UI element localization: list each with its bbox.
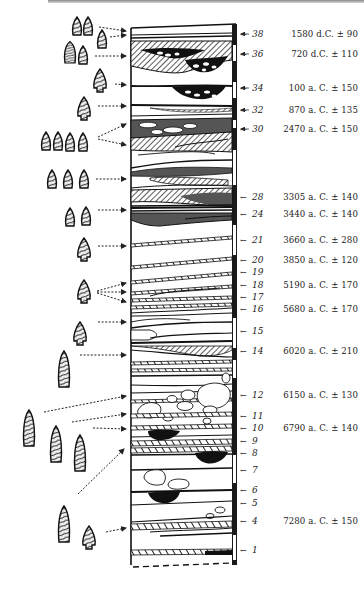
- arrow-left-icon: ←: [240, 485, 250, 497]
- arrow-left-icon: ←: [240, 124, 250, 136]
- arrow-left-icon: ←: [240, 423, 250, 435]
- layer-label: ←7: [240, 464, 358, 476]
- arrow-left-icon: ←: [240, 105, 250, 117]
- layer-label: ←47280 a. C. ± 150: [240, 515, 358, 527]
- arrow-left-icon: ←: [240, 326, 250, 338]
- layer-label: ←5: [240, 497, 358, 509]
- layer-label: ←19: [240, 266, 358, 278]
- arrow-left-icon: ←: [240, 448, 250, 460]
- layer-label: ←165680 a. C. ± 170: [240, 303, 358, 315]
- layer-label: ←6: [240, 484, 358, 496]
- arrow-left-icon: ←: [240, 545, 250, 557]
- layer-label: ←17: [240, 291, 358, 303]
- arrow-left-icon: ←: [240, 209, 250, 221]
- layer-label: ←15: [240, 325, 358, 337]
- arrow-left-icon: ←: [240, 83, 250, 95]
- arrow-left-icon: ←: [240, 235, 250, 247]
- layer-label: ←34100 a. C. ± 150: [240, 82, 358, 94]
- arrow-left-icon: ←: [240, 516, 250, 528]
- layer-label: ←126150 a. C. ± 130: [240, 389, 358, 401]
- layer-label: ←8: [240, 447, 358, 459]
- stratigraphic-column: [131, 24, 237, 567]
- layer-label: ←11: [240, 410, 358, 422]
- projectile-points: [24, 17, 107, 549]
- layer-label: ←185190 a. C. ± 170: [240, 279, 358, 291]
- layer-label: ←1: [240, 544, 358, 556]
- arrow-left-icon: ←: [240, 29, 250, 41]
- layer-label: ←32870 a. C. ± 135: [240, 104, 358, 116]
- layer-label: ←146020 a. C. ± 210: [240, 345, 358, 357]
- arrow-left-icon: ←: [240, 390, 250, 402]
- arrow-left-icon: ←: [240, 346, 250, 358]
- arrow-left-icon: ←: [240, 304, 250, 316]
- layer-label: ←203850 a. C. ± 120: [240, 254, 358, 266]
- layer-label: ←106790 a. C. ± 140: [240, 422, 358, 434]
- arrow-left-icon: ←: [240, 465, 250, 477]
- arrow-left-icon: ←: [240, 267, 250, 279]
- layer-label: ←9: [240, 435, 358, 447]
- layer-label: ←213660 a. C. ± 280: [240, 234, 358, 246]
- layer-label: ←36720 d.C. ± 110: [240, 48, 358, 60]
- layer-label: ←302470 a. C. ± 150: [240, 123, 358, 135]
- layer-label: ←381580 d.C. ± 90: [240, 28, 358, 40]
- arrow-left-icon: ←: [240, 192, 250, 204]
- arrow-left-icon: ←: [240, 498, 250, 510]
- layer-label: ←243440 a. C. ± 140: [240, 208, 358, 220]
- layer-label: ←283305 a. C. ± 140: [240, 191, 358, 203]
- arrow-left-icon: ←: [240, 49, 250, 61]
